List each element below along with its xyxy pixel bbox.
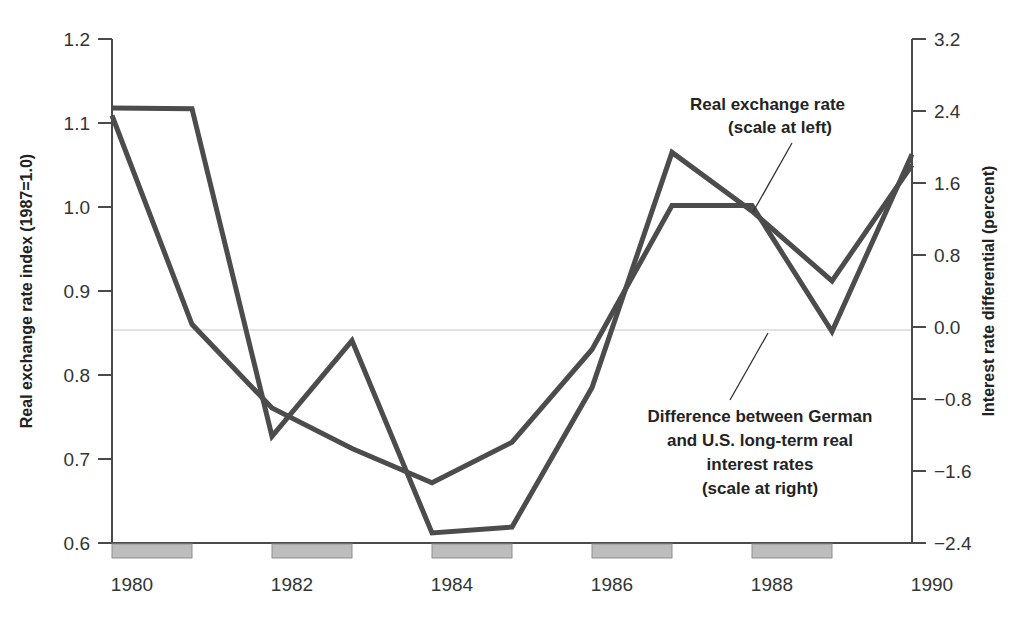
left-tick-label: 0.7 <box>64 449 90 470</box>
chart-figure: 0.60.70.80.91.01.11.2 −2.4−1.6−0.80.00.8… <box>0 0 1022 620</box>
right-tick-label: −2.4 <box>934 533 972 554</box>
right-tick-label: −1.6 <box>934 461 972 482</box>
left-tick-label: 0.9 <box>64 281 90 302</box>
annotation2-line-3: interest rates <box>707 455 814 474</box>
year-block <box>112 544 192 558</box>
right-tick-label: −0.8 <box>934 389 972 410</box>
right-axis-title: Interest rate differential (percent) <box>980 166 997 417</box>
left-tick-label: 1.2 <box>64 29 90 50</box>
year-block <box>592 544 672 558</box>
right-tick-label: 1.6 <box>934 173 960 194</box>
annotation2-line-1: Difference between German <box>648 407 873 426</box>
year-block <box>272 544 352 558</box>
annotation2-line-2: and U.S. long-term real <box>667 431 853 450</box>
left-tick-label: 0.8 <box>64 365 90 386</box>
annotation-line-2: (scale at left) <box>728 118 832 137</box>
year-block <box>432 544 512 558</box>
left-tick-label: 0.6 <box>64 533 90 554</box>
chart-canvas: 0.60.70.80.91.01.11.2 −2.4−1.6−0.80.00.8… <box>0 0 1022 620</box>
annotation2-line-4: (scale at right) <box>702 479 818 498</box>
year-block <box>752 544 832 558</box>
x-tick-label: 1984 <box>431 574 474 595</box>
right-tick-label: 0.0 <box>934 317 960 338</box>
x-tick-label: 1990 <box>911 574 953 595</box>
right-tick-label: 2.4 <box>934 101 961 122</box>
x-tick-label: 1988 <box>751 574 793 595</box>
annotation-line-1: Real exchange rate <box>690 95 845 114</box>
x-tick-label: 1986 <box>591 574 633 595</box>
right-tick-label: 3.2 <box>934 29 960 50</box>
left-tick-label: 1.1 <box>64 113 90 134</box>
x-tick-label: 1980 <box>111 574 153 595</box>
x-tick-label: 1982 <box>271 574 313 595</box>
right-tick-label: 0.8 <box>934 245 960 266</box>
left-tick-label: 1.0 <box>64 197 90 218</box>
left-axis-title: Real exchange rate index (1987=1.0) <box>18 154 35 428</box>
